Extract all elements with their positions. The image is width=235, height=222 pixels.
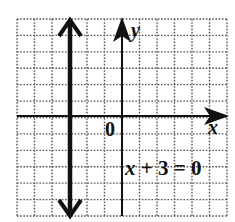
equation-rest: + 3 = 0 (136, 156, 202, 180)
y-axis-label: y (129, 19, 140, 42)
origin-label: 0 (105, 118, 115, 140)
equation-variable: x (124, 156, 136, 180)
coordinate-graph: y x 0 x + 3 = 0 (0, 0, 235, 222)
equation-label: x + 3 = 0 (124, 156, 201, 180)
x-axis-label: x (207, 116, 218, 138)
